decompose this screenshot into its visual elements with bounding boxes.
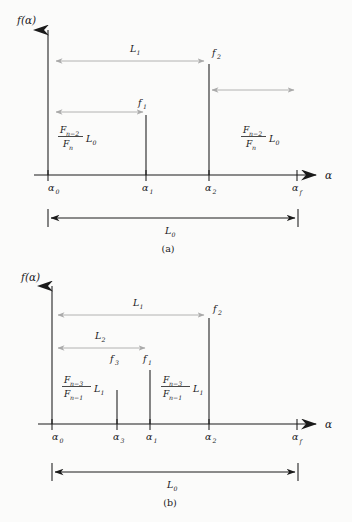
fraction-tail: L: [93, 383, 100, 394]
tick-label-sub: 0: [60, 437, 64, 444]
arrow-label-text: L: [94, 330, 101, 341]
fibonacci-search-figure: f(α) α α 0 α 1 α 2 α f f 1: [0, 0, 352, 522]
stem-label-sub: 2: [216, 53, 221, 60]
panel-b-label-f1: f 1: [142, 353, 152, 366]
panel-a-label-f1: f 1: [137, 97, 147, 110]
tick-label-sub: 1: [154, 437, 158, 444]
panel-b-fraction-right: F n−3 F n−1 L 1: [161, 375, 203, 401]
tick-label-text: α: [292, 431, 299, 442]
tick-label-text: α: [113, 431, 120, 442]
panel-a-L0-label: L 0: [164, 225, 176, 238]
tick-label-text: α: [292, 182, 299, 193]
panel-b: f(α) α α 0 α 3 α 1 α 2 α f: [20, 271, 332, 508]
fraction-numerator-sub: n−2: [249, 130, 262, 137]
panel-b-tick-label-alpha2: α 2: [205, 431, 217, 444]
fraction-tail: L: [268, 133, 275, 144]
panel-a-tick-label-alpha0: α 0: [48, 182, 60, 195]
fraction-numerator-sub: n−3: [70, 380, 83, 387]
panel-a-label-f2: f 2: [211, 47, 221, 60]
tick-label-sub: 1: [150, 188, 154, 195]
fraction-denominator-sub: n−1: [169, 394, 182, 401]
tick-label-sub: 0: [56, 188, 60, 195]
arrow-label-text: L: [132, 297, 139, 308]
panel-b-label-f2: f 2: [212, 303, 222, 316]
panel-a-fraction-right: F n−2 F n L 0: [241, 125, 280, 151]
tick-label-text: α: [48, 182, 55, 193]
tick-label-text: α: [52, 431, 59, 442]
fraction-tail: L: [85, 133, 92, 144]
fraction-numerator-sub: n−3: [169, 380, 182, 387]
tick-label-text: α: [142, 182, 149, 193]
fraction-tail-sub: 0: [93, 139, 97, 146]
panel-b-tick-label-alpha0: α 0: [52, 431, 64, 444]
fraction-tail: L: [192, 383, 199, 394]
tick-label-sub: 2: [212, 188, 217, 195]
fraction-tail-sub: 1: [200, 389, 204, 396]
panel-a-tick-label-alpha2: α 2: [205, 182, 217, 195]
panel-b-fraction-left: F n−3 F n−1 L 1: [62, 375, 104, 401]
panel-a-caption: (a): [161, 243, 174, 254]
measure-label-sub: 0: [172, 231, 176, 238]
fraction-denominator-sub: n−1: [70, 394, 83, 401]
panel-b-caption: (b): [163, 497, 177, 508]
panel-a-y-axis-label: f(α): [16, 14, 36, 26]
panel-a-tick-label-alpha1: α 1: [142, 182, 153, 195]
arrow-label-sub: 1: [137, 49, 141, 56]
stem-label-sub: 1: [143, 103, 147, 110]
tick-label-text: α: [146, 431, 153, 442]
panel-b-L2-label: L 2: [94, 330, 106, 343]
panel-b-x-axis-label: α: [325, 418, 332, 430]
panel-a-L1-label: L 1: [129, 43, 140, 56]
panel-b-L1-label: L 1: [132, 297, 143, 310]
tick-label-sub: 2: [212, 437, 217, 444]
tick-label-sub: f: [299, 438, 304, 446]
fraction-tail-sub: 0: [276, 139, 280, 146]
panel-b-label-f3: f 3: [109, 353, 119, 366]
tick-label-sub: f: [299, 189, 304, 197]
tick-label-sub: 3: [121, 437, 125, 444]
stem-label-sub: 1: [148, 359, 152, 366]
stem-label-sub: 3: [115, 359, 119, 366]
tick-label-text: α: [205, 182, 212, 193]
measure-label-sub: 0: [174, 485, 178, 492]
arrow-label-text: L: [129, 43, 136, 54]
panel-b-y-axis-label: f(α): [20, 271, 40, 283]
figure-canvas: f(α) α α 0 α 1 α 2 α f f 1: [0, 0, 352, 522]
arrow-label-sub: 1: [140, 303, 144, 310]
panel-a-fraction-left: F n−2 F n L 0: [58, 125, 97, 151]
measure-label-text: L: [166, 479, 173, 490]
panel-a: f(α) α α 0 α 1 α 2 α f f 1: [16, 14, 332, 254]
panel-b-L0-label: L 0: [166, 479, 178, 492]
panel-b-tick-label-alpha1: α 1: [146, 431, 157, 444]
fraction-numerator-sub: n−2: [66, 130, 79, 137]
tick-label-text: α: [205, 431, 212, 442]
panel-b-tick-label-alphaf: α f: [292, 431, 304, 446]
stem-label-sub: 2: [217, 309, 222, 316]
fraction-denominator-sub: n: [69, 144, 73, 151]
fraction-denominator-sub: n: [252, 144, 256, 151]
arrow-label-sub: 2: [101, 336, 106, 343]
panel-a-x-axis-label: α: [325, 169, 332, 181]
measure-label-text: L: [164, 225, 171, 236]
panel-b-tick-label-alpha3: α 3: [113, 431, 125, 444]
panel-a-tick-label-alphaf: α f: [292, 182, 304, 197]
fraction-tail-sub: 1: [101, 389, 105, 396]
